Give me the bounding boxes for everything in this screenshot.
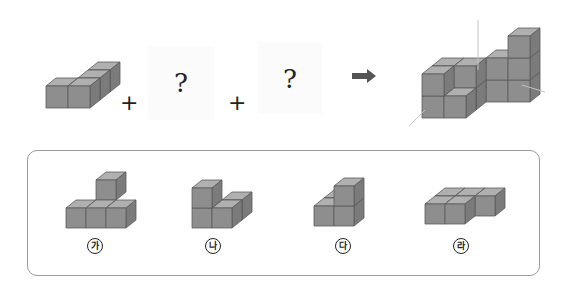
given-piece-cubes — [46, 62, 120, 108]
option-ra[interactable]: 라 — [441, 238, 481, 254]
option-ga-label: 가 — [87, 238, 103, 254]
option-na-label: 나 — [205, 238, 221, 254]
unknown-piece-box-2: ? — [258, 42, 322, 114]
option-da[interactable]: 다 — [323, 238, 363, 254]
option-ga[interactable]: 가 — [75, 238, 115, 254]
right-arrow-icon — [352, 69, 376, 83]
option-ra-label: 라 — [453, 238, 469, 254]
options-panel — [27, 150, 540, 276]
question-mark-2: ? — [258, 64, 322, 94]
option-na[interactable]: 나 — [193, 238, 233, 254]
question-mark-1: ? — [148, 68, 214, 98]
result-shape-cubes — [422, 28, 540, 118]
option-da-label: 다 — [335, 238, 351, 254]
plus-sign-2: + — [228, 92, 246, 114]
plus-sign-1: + — [120, 92, 138, 114]
unknown-piece-box-1: ? — [148, 46, 214, 120]
